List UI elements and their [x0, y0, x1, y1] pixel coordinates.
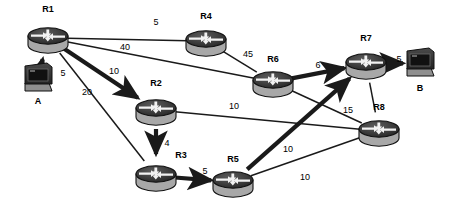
edge-cost-label-r4-r6: 45 [243, 49, 253, 59]
edge-cost-label-r2-r8: 10 [229, 101, 239, 111]
router-label-r5: R5 [227, 154, 239, 164]
router-r8 [359, 121, 399, 146]
edge-cost-label-r3-r5: 5 [202, 166, 207, 176]
edge-r5-r8 [251, 137, 361, 175]
host-label-a: A [35, 96, 42, 106]
edge-r2-r8 [175, 112, 360, 129]
router-label-r7: R7 [360, 33, 372, 43]
edge-cost-label-r8-r7: 15 [343, 105, 353, 115]
edge-cost-label-r6-r7: 6 [315, 60, 320, 70]
host-a [25, 63, 52, 91]
router-r7 [346, 54, 386, 79]
router-label-r3: R3 [175, 150, 187, 160]
host-label-b: B [417, 83, 424, 93]
edge-cost-label-r1-r4: 5 [153, 17, 158, 27]
edge-cost-label-r7-b: 5 [396, 54, 401, 64]
edge-cost-label-a-r1: 5 [60, 68, 65, 78]
host-b [407, 48, 434, 76]
edge-cost-label-r1-r3: 20 [82, 87, 92, 97]
edge-r1-r4 [67, 38, 187, 40]
router-r3 [136, 166, 176, 191]
network-diagram: 5540102045654105101015 R1R2R3R4R5R6R7R8A… [0, 0, 462, 216]
edge-cost-label-r2-r3: 4 [164, 138, 169, 148]
router-label-r6: R6 [267, 54, 279, 64]
network-graph-canvas: 5540102045654105101015 R1R2R3R4R5R6R7R8A… [0, 0, 462, 216]
router-r1 [28, 28, 68, 53]
router-r5 [213, 172, 253, 197]
edge-cost-label-r1-r6: 40 [120, 42, 130, 52]
edge-cost-label-r1-r2: 10 [109, 66, 119, 76]
edge-cost-label-r5-r7: 10 [283, 144, 293, 154]
edge-r3-r5 [175, 177, 211, 180]
edge-cost-label-r5-r8: 10 [300, 172, 310, 182]
router-r2 [136, 100, 176, 125]
router-label-r1: R1 [42, 4, 54, 14]
router-label-r8: R8 [373, 102, 385, 112]
edge-r1-r3 [60, 53, 145, 161]
router-r4 [186, 31, 226, 56]
router-r6 [253, 72, 293, 97]
router-label-r4: R4 [200, 11, 212, 21]
router-label-r2: R2 [150, 78, 162, 88]
